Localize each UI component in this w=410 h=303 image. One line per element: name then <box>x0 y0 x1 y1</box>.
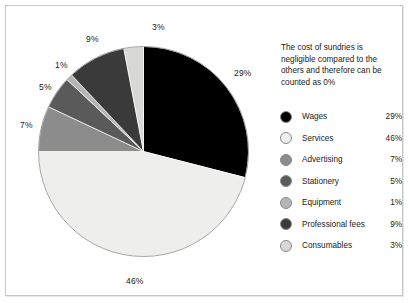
legend-percent: 5% <box>380 177 402 186</box>
legend-label: Wages <box>302 112 380 121</box>
slice-label-stationery: 5% <box>39 82 52 92</box>
info-panel: The cost of sundries is negligible compa… <box>271 6 404 297</box>
legend-label: Professional fees <box>302 220 380 229</box>
legend-swatch-icon <box>280 197 292 209</box>
legend-swatch-icon <box>280 218 292 230</box>
legend-row[interactable]: Consumables3% <box>280 235 402 257</box>
legend: Wages29%Services46%Advertising7%Statione… <box>280 106 402 257</box>
slice-label-wages: 29% <box>234 68 252 78</box>
legend-label: Services <box>302 134 380 143</box>
legend-swatch-icon <box>280 132 292 144</box>
legend-swatch-icon <box>280 175 292 187</box>
legend-percent: 9% <box>380 220 402 229</box>
pie-slices <box>39 47 249 257</box>
chart-frame: 29% 46% 7% 5% 1% 9% 3% The cost of sundr… <box>5 5 403 296</box>
legend-percent: 7% <box>380 155 402 164</box>
legend-percent: 29% <box>380 112 402 121</box>
legend-label: Equipment <box>302 198 380 207</box>
legend-row[interactable]: Stationery5% <box>280 171 402 193</box>
legend-percent: 46% <box>380 134 402 143</box>
legend-row[interactable]: Wages29% <box>280 106 402 128</box>
legend-swatch-icon <box>280 111 292 123</box>
legend-swatch-icon <box>280 240 292 252</box>
caption-text: The cost of sundries is negligible compa… <box>281 42 399 88</box>
slice-label-advertising: 7% <box>20 120 33 130</box>
legend-swatch-icon <box>280 154 292 166</box>
legend-row[interactable]: Professional fees9% <box>280 214 402 236</box>
legend-label: Advertising <box>302 155 380 164</box>
legend-row[interactable]: Equipment1% <box>280 192 402 214</box>
slice-label-services: 46% <box>126 276 144 286</box>
pie-chart <box>36 44 251 259</box>
slice-label-professional-fees: 9% <box>86 34 99 44</box>
legend-row[interactable]: Services46% <box>280 128 402 150</box>
legend-label: Stationery <box>302 177 380 186</box>
slice-label-consumables: 3% <box>152 22 165 32</box>
slice-label-equipment: 1% <box>55 60 68 70</box>
legend-percent: 3% <box>380 241 402 250</box>
legend-label: Consumables <box>302 241 380 250</box>
legend-row[interactable]: Advertising7% <box>280 149 402 171</box>
pie-chart-area: 29% 46% 7% 5% 1% 9% 3% <box>6 6 271 297</box>
legend-percent: 1% <box>380 198 402 207</box>
